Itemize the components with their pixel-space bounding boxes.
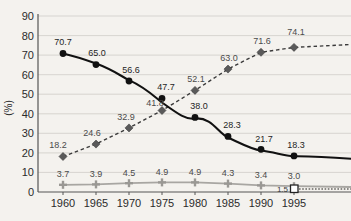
label-flat-1985: 4.3 bbox=[222, 168, 235, 178]
labels-series-bottom-open-square: 1.5 bbox=[277, 185, 289, 194]
label-declining-1965: 65.0 bbox=[88, 48, 106, 58]
chart-figure: 90 80 70 60 50 40 30 20 10 0 (%) 1960 19… bbox=[0, 0, 351, 221]
marker-circle-1990 bbox=[258, 146, 265, 153]
label-rising-1960: 18.2 bbox=[49, 140, 67, 150]
label-rising-1965: 24.6 bbox=[83, 128, 101, 138]
marker-open-square-1995 bbox=[291, 185, 299, 193]
label-declining-1980: 38.0 bbox=[190, 101, 208, 111]
y-tick-60: 60 bbox=[22, 69, 34, 81]
label-declining-1975: 47.7 bbox=[157, 82, 175, 92]
label-flat-1995: 3.0 bbox=[288, 171, 301, 181]
line-chart-canvas: 90 80 70 60 50 40 30 20 10 0 (%) 1960 19… bbox=[0, 0, 351, 221]
label-flat-1975: 4.9 bbox=[156, 167, 169, 177]
marker-circle-1970 bbox=[126, 78, 133, 85]
marker-circle-1965 bbox=[93, 61, 100, 68]
marker-circle-1985 bbox=[225, 133, 232, 140]
y-axis-title: (%) bbox=[3, 100, 14, 116]
marker-circle-1980 bbox=[192, 114, 199, 121]
y-tick-50: 50 bbox=[22, 88, 34, 100]
label-flat-1980: 4.9 bbox=[189, 167, 202, 177]
label-rising-1970: 32.9 bbox=[117, 112, 135, 122]
label-rising-1975: 41.8 bbox=[146, 98, 164, 108]
y-tick-70: 70 bbox=[22, 49, 34, 61]
label-rising-1990: 71.6 bbox=[253, 36, 271, 46]
y-tick-10: 10 bbox=[22, 166, 34, 178]
x-tick-1990: 1990 bbox=[249, 197, 273, 209]
label-declining-1985: 28.3 bbox=[223, 120, 241, 130]
x-tick-1965: 1965 bbox=[84, 197, 108, 209]
y-tick-80: 80 bbox=[22, 30, 34, 42]
x-tick-1960: 1960 bbox=[51, 197, 75, 209]
label-declining-1995: 18.3 bbox=[287, 140, 305, 150]
x-tick-1975: 1975 bbox=[150, 197, 174, 209]
y-tick-20: 20 bbox=[22, 147, 34, 159]
y-tick-90: 90 bbox=[22, 10, 34, 22]
label-declining-1960: 70.7 bbox=[54, 37, 72, 47]
marker-circle-1960 bbox=[60, 50, 67, 57]
label-declining-1970: 56.6 bbox=[122, 65, 140, 75]
label-bottom-1995: 1.5 bbox=[277, 185, 289, 194]
y-tick-40: 40 bbox=[22, 108, 34, 120]
label-declining-1990: 21.7 bbox=[255, 134, 273, 144]
marker-circle-1995 bbox=[291, 153, 298, 160]
label-flat-1970: 4.5 bbox=[123, 168, 136, 178]
x-tick-1970: 1970 bbox=[117, 197, 141, 209]
label-rising-1985: 63.0 bbox=[220, 53, 238, 63]
label-flat-1965: 3.9 bbox=[90, 169, 103, 179]
x-tick-1980: 1980 bbox=[183, 197, 207, 209]
y-tick-0: 0 bbox=[28, 186, 34, 198]
label-rising-1980: 52.1 bbox=[187, 74, 205, 84]
label-flat-1960: 3.7 bbox=[57, 169, 70, 179]
x-tick-1995: 1995 bbox=[282, 197, 306, 209]
label-flat-1990: 3.4 bbox=[255, 170, 268, 180]
label-rising-1995: 74.1 bbox=[287, 27, 305, 37]
y-tick-30: 30 bbox=[22, 127, 34, 139]
x-tick-1985: 1985 bbox=[216, 197, 240, 209]
